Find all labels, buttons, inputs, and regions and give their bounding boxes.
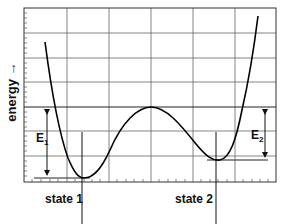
e2-label: E2 [251,128,264,144]
energy-diagram: E1 E2 state 1 state 2 energy → [0,0,285,224]
state-2-label: state 2 [175,192,213,206]
y-axis-label: energy → [4,62,19,121]
state-1-label: state 1 [45,192,83,206]
grid [24,8,276,182]
energy-curve [45,16,258,178]
